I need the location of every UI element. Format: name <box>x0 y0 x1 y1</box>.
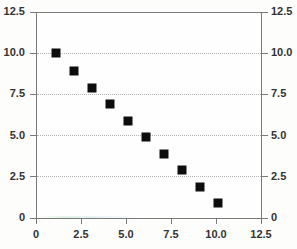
data-point <box>123 116 132 125</box>
top-frame-line <box>36 12 262 13</box>
y-tick-right-0 <box>262 218 268 219</box>
x-tick-label-0: 0 <box>16 228 56 240</box>
data-point <box>195 182 204 191</box>
data-point <box>159 149 168 158</box>
y-axis-right-line <box>261 12 262 219</box>
gridline-y-7.5 <box>37 94 261 95</box>
x-tick-label-12.5: 12.5 <box>241 228 281 240</box>
x-tick-5.0 <box>126 219 127 224</box>
gridline-y-10 <box>37 53 261 54</box>
x-tick-12.5 <box>261 219 262 224</box>
y-tick-label-right-5.0: 5.0 <box>271 129 286 141</box>
y-tick-right-5.0 <box>262 135 268 136</box>
y-tick-left-5.0 <box>30 135 36 136</box>
y-tick-label-right-2.5: 2.5 <box>271 170 286 182</box>
y-tick-right-12.5 <box>262 12 268 13</box>
y-tick-label-left-5.0: 5.0 <box>10 129 25 141</box>
y-tick-label-right-0: 0 <box>271 211 277 223</box>
data-point <box>105 100 114 109</box>
y-tick-right-7.5 <box>262 94 268 95</box>
x-tick-label-10.0: 10.0 <box>196 228 236 240</box>
y-tick-label-right-7.5: 7.5 <box>271 87 286 99</box>
y-tick-right-10.0 <box>262 53 268 54</box>
y-tick-left-10.0 <box>30 53 36 54</box>
x-tick-7.5 <box>171 219 172 224</box>
scatter-chart: 02.55.07.510.012.5 02.55.07.510.012.5 02… <box>0 0 297 249</box>
data-point <box>51 49 60 58</box>
y-tick-left-12.5 <box>30 12 36 13</box>
y-tick-label-left-2.5: 2.5 <box>10 170 25 182</box>
data-point <box>177 166 186 175</box>
data-point <box>141 133 150 142</box>
x-tick-0 <box>36 219 37 224</box>
x-tick-label-2.5: 2.5 <box>61 228 101 240</box>
y-tick-left-2.5 <box>30 176 36 177</box>
x-tick-10.0 <box>216 219 217 224</box>
y-tick-right-2.5 <box>262 176 268 177</box>
x-tick-label-5.0: 5.0 <box>106 228 146 240</box>
y-tick-label-right-10.0: 10.0 <box>271 46 292 58</box>
x-tick-label-7.5: 7.5 <box>151 228 191 240</box>
data-point <box>213 199 222 208</box>
y-tick-label-right-12.5: 12.5 <box>271 5 292 17</box>
y-tick-label-left-10.0: 10.0 <box>4 46 25 58</box>
x-axis-line <box>36 218 262 219</box>
y-axis-left-line <box>36 12 37 219</box>
data-point <box>69 67 78 76</box>
gridline-y-2.5 <box>37 176 261 177</box>
y-tick-left-7.5 <box>30 94 36 95</box>
plot-area <box>36 12 261 218</box>
data-point <box>87 83 96 92</box>
y-tick-label-left-0: 0 <box>19 211 25 223</box>
y-tick-label-left-12.5: 12.5 <box>4 5 25 17</box>
x-tick-2.5 <box>81 219 82 224</box>
y-tick-label-left-7.5: 7.5 <box>10 87 25 99</box>
